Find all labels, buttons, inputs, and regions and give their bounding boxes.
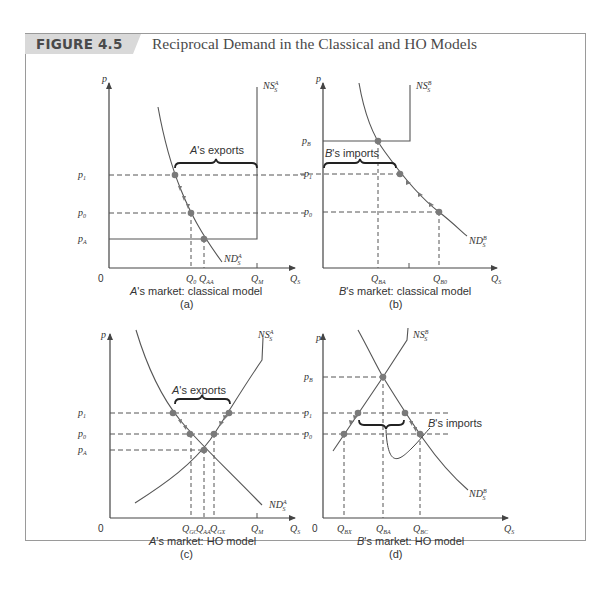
- origin-label: 0: [312, 523, 318, 534]
- arrow-icon: [183, 425, 187, 430]
- point: [402, 410, 409, 417]
- qaa-label: QAA: [199, 273, 214, 285]
- qba-label: QBA: [371, 273, 386, 285]
- p0-label: p0: [77, 207, 86, 219]
- point: [201, 236, 208, 243]
- panel-letter: (a): [180, 298, 193, 310]
- point: [226, 410, 233, 417]
- point: [355, 410, 362, 417]
- arrow-icon: [178, 419, 182, 424]
- qs-label: QS: [290, 273, 300, 285]
- caption: A's market: classical model: [129, 285, 262, 297]
- panel-b: p B's imports pB p1 p0 QBA QB0 QS NSBS N…: [300, 73, 501, 310]
- nd-label: NDBS: [468, 488, 487, 501]
- y-axis-label: p: [100, 329, 106, 340]
- exports-brace: [175, 159, 257, 168]
- ns-curve: [135, 338, 263, 503]
- ns-label: NSBS: [415, 80, 432, 93]
- qm-label: QM: [251, 273, 264, 285]
- panel-a: p 0 A's exports p1 p0 pA Q0 QAA QM QS NS…: [77, 73, 305, 310]
- imports-label: B's imports: [325, 147, 380, 159]
- point: [188, 210, 195, 217]
- nd-curve: [358, 330, 468, 490]
- origin-label: 0: [98, 273, 104, 284]
- point: [170, 410, 177, 417]
- p0-label: p0: [303, 206, 312, 218]
- point: [397, 171, 404, 178]
- p1-label: p1: [77, 169, 86, 181]
- panel-letter: (b): [389, 298, 402, 310]
- pA-label: pA: [77, 233, 87, 245]
- exports-label: A's exports: [171, 384, 227, 396]
- point: [201, 447, 208, 454]
- panel-letter: (c): [180, 548, 193, 560]
- qaa-label: QAA: [196, 523, 211, 535]
- panel-c: p 0 A's exports p1 p0 pA QGC QAA QGX QM: [77, 329, 305, 560]
- panel-d: p 0 B's imports pB p1 p0 QBX QBA QBC: [303, 328, 514, 560]
- qgx-label: QGX: [210, 523, 226, 535]
- caption: B's market: HO model: [357, 535, 464, 547]
- arrow-icon: [409, 421, 413, 426]
- qbx-label: QBX: [337, 523, 352, 535]
- nd-label: NDAS: [223, 253, 242, 266]
- arrow-icon: [413, 427, 417, 432]
- qs-label: QS: [290, 523, 300, 535]
- arrow-icon: [418, 192, 423, 197]
- imports-pointer: [386, 428, 430, 459]
- ns-label: NSAS: [257, 329, 274, 342]
- p1-label: p1: [77, 407, 86, 419]
- nd-curve: [136, 330, 262, 505]
- nd-label: NDBS: [468, 235, 487, 248]
- origin-label: 0: [98, 523, 104, 534]
- imports-brace: [324, 159, 396, 168]
- qs-label: QS: [491, 273, 501, 285]
- y-axis-label: p: [101, 73, 107, 84]
- point: [187, 431, 194, 438]
- ns-label: NSAS: [262, 80, 279, 93]
- pB-label: pB: [301, 135, 311, 147]
- y-axis-label: p: [315, 332, 321, 343]
- exports-label: A's exports: [189, 144, 245, 156]
- p0-label: p0: [77, 428, 86, 440]
- point: [341, 431, 348, 438]
- point: [172, 172, 179, 179]
- qs-label: QS: [504, 523, 514, 535]
- panel-letter: (d): [389, 548, 402, 560]
- p1-label: p1: [303, 168, 312, 180]
- caption: B's market: classical model: [339, 285, 471, 297]
- point: [380, 374, 387, 381]
- imports-brace: [359, 420, 404, 429]
- exports-brace: [175, 395, 230, 404]
- qb0-label: QB0: [433, 273, 447, 285]
- ns-label: NSBS: [412, 329, 429, 342]
- point: [375, 138, 382, 145]
- p1-label: p1: [303, 407, 312, 419]
- y-axis-label: p: [315, 73, 321, 84]
- q0-label: Q0: [186, 273, 196, 285]
- point: [211, 431, 218, 438]
- figure-diagram: p 0 A's exports p1 p0 pA Q0 QAA QM QS NS…: [0, 0, 609, 597]
- caption: A's market: HO model: [148, 535, 256, 547]
- nd-curve: [359, 83, 467, 236]
- point: [436, 209, 443, 216]
- qba-label: QBA: [376, 523, 391, 535]
- imports-label: B's imports: [428, 417, 483, 429]
- p0-label: p0: [303, 428, 312, 440]
- qm-label: QM: [251, 523, 264, 535]
- pA-label: pA: [77, 444, 87, 456]
- pB-label: pB: [303, 371, 313, 383]
- nd-label: NDAS: [268, 499, 287, 512]
- qbc-label: QBC: [413, 523, 429, 535]
